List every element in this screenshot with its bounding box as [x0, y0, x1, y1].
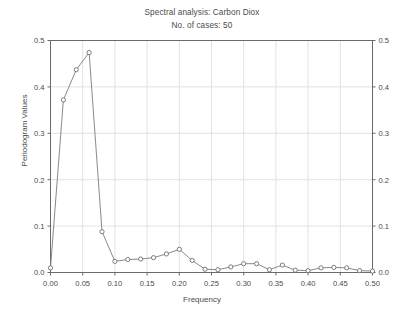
data-point-marker — [164, 252, 168, 256]
data-point-marker — [203, 267, 207, 271]
x-tick-label: 0.45 — [333, 279, 348, 288]
data-point-marker — [48, 266, 52, 270]
data-point-marker — [332, 265, 336, 269]
data-point-marker — [177, 247, 181, 251]
y-tick-label-right: 0.3 — [379, 129, 390, 138]
data-point-marker — [216, 268, 220, 272]
data-point-marker — [267, 268, 271, 272]
data-point-marker — [74, 68, 78, 72]
data-point-marker — [254, 262, 258, 266]
data-point-marker — [229, 265, 233, 269]
y-tick-label-left: 0.5 — [34, 36, 45, 45]
data-point-marker — [306, 269, 310, 273]
data-point-marker — [280, 263, 284, 267]
data-point-marker — [151, 256, 155, 260]
y-tick-label-left: 0.0 — [34, 268, 45, 277]
data-point-marker — [345, 266, 349, 270]
data-point-marker — [87, 50, 91, 54]
x-tick-label: 0.00 — [43, 279, 58, 288]
data-point-marker — [319, 266, 323, 270]
y-tick-label-right: 0.0 — [379, 268, 390, 277]
gridlines — [51, 41, 373, 273]
data-point-marker — [370, 269, 374, 273]
data-point-marker — [242, 262, 246, 266]
x-tick-label: 0.20 — [172, 279, 187, 288]
y-tick-label-left: 0.1 — [34, 222, 45, 231]
x-tick-label: 0.35 — [269, 279, 284, 288]
data-point-marker — [358, 269, 362, 273]
spectral-analysis-chart: Spectral analysis: Carbon Diox No. of ca… — [0, 0, 404, 317]
data-point-marker — [113, 259, 117, 263]
x-tick-label: 0.25 — [204, 279, 219, 288]
y-tick-label-right: 0.4 — [379, 83, 390, 92]
x-tick-label: 0.10 — [108, 279, 123, 288]
data-point-marker — [126, 257, 130, 261]
y-tick-label-right: 0.2 — [379, 176, 390, 185]
data-point-marker — [100, 230, 104, 234]
x-tick-label: 0.05 — [75, 279, 90, 288]
data-point-marker — [139, 257, 143, 261]
data-point-marker — [190, 258, 194, 262]
y-tick-label-right: 0.5 — [379, 36, 390, 45]
y-tick-label-right: 0.1 — [379, 222, 390, 231]
x-tick-label: 0.50 — [365, 279, 380, 288]
y-tick-label-left: 0.2 — [34, 176, 45, 185]
data-point-marker — [61, 98, 65, 102]
y-tick-label-left: 0.4 — [34, 83, 45, 92]
y-tick-label-left: 0.3 — [34, 129, 45, 138]
x-tick-label: 0.40 — [301, 279, 316, 288]
data-point-marker — [293, 268, 297, 272]
x-tick-label: 0.30 — [236, 279, 251, 288]
x-tick-label: 0.15 — [140, 279, 155, 288]
plot-area: 0.000.050.100.150.200.250.300.350.400.45… — [0, 0, 404, 317]
